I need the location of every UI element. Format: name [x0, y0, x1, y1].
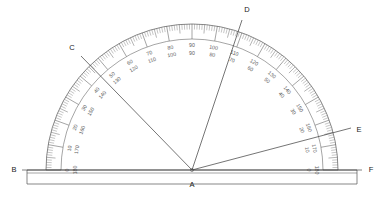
- tick-minor: [212, 25, 213, 30]
- tick-minor: [330, 142, 335, 143]
- tick-minor: [59, 111, 64, 113]
- tick-minor: [172, 25, 173, 30]
- point-label-D: D: [244, 5, 250, 14]
- point-label-A: A: [189, 180, 194, 189]
- tick-minor: [47, 150, 52, 151]
- tick-major: [142, 33, 147, 47]
- tick-medium: [271, 50, 276, 57]
- tick-minor: [64, 99, 69, 102]
- tick-major: [167, 26, 170, 41]
- tick-minor: [327, 130, 332, 132]
- tick-minor: [91, 65, 95, 69]
- tick-minor: [311, 93, 316, 96]
- tick-minor: [140, 34, 142, 39]
- tick-minor: [310, 90, 315, 93]
- tick-minor: [326, 125, 331, 127]
- scale-number-inner: 100: [167, 51, 177, 58]
- tick-minor: [219, 27, 220, 32]
- tick-minor: [331, 147, 336, 148]
- tick-minor: [92, 63, 96, 67]
- scale-number-inner: 90: [189, 50, 195, 56]
- tick-major: [305, 97, 318, 105]
- tick-medium: [179, 25, 180, 34]
- tick-minor: [61, 106, 66, 108]
- tick-minor: [84, 72, 88, 76]
- scale-number-outer: 80: [167, 44, 174, 51]
- tick-minor: [57, 115, 62, 117]
- point-label-C: C: [69, 43, 75, 52]
- tick-minor: [49, 142, 54, 143]
- tick-minor: [226, 28, 227, 33]
- tick-major: [55, 120, 69, 125]
- tick-minor: [329, 137, 334, 138]
- tick-minor: [247, 36, 249, 41]
- tick-medium: [204, 25, 205, 34]
- tick-minor: [323, 118, 328, 120]
- tick-minor: [68, 93, 73, 96]
- tick-minor: [320, 111, 325, 113]
- scale-number-outer: 70: [146, 49, 154, 57]
- tick-minor: [249, 37, 251, 42]
- scale-number-outer: 100: [209, 44, 219, 51]
- tick-minor: [279, 55, 282, 59]
- tick-major: [321, 145, 336, 148]
- tick-minor: [96, 60, 100, 64]
- tick-minor: [288, 63, 292, 67]
- tick-minor: [308, 88, 313, 91]
- point-label-E: E: [356, 125, 361, 134]
- tick-major: [315, 120, 329, 125]
- tick-minor: [169, 26, 170, 31]
- tick-medium: [289, 67, 295, 73]
- tick-minor: [290, 65, 294, 69]
- tick-medium: [328, 157, 337, 158]
- tick-minor: [214, 26, 215, 31]
- tick-minor: [70, 90, 75, 93]
- scale-number-inner: 170: [73, 145, 80, 155]
- tick-medium: [51, 132, 60, 134]
- tick-minor: [298, 74, 302, 78]
- scale-number-inner: 10: [304, 146, 311, 153]
- tick-minor: [207, 25, 208, 30]
- tick-minor: [74, 84, 78, 87]
- scale-number-outer: 10: [66, 145, 73, 152]
- tick-medium: [72, 86, 79, 91]
- tick-minor: [254, 39, 256, 44]
- tick-minor: [123, 41, 126, 46]
- tick-minor: [331, 152, 336, 153]
- tick-major: [215, 26, 218, 41]
- tick-minor: [112, 48, 115, 53]
- tick-minor: [329, 140, 334, 141]
- tick-major: [48, 145, 63, 148]
- scale-number-inner: 50: [263, 76, 271, 84]
- tick-minor: [77, 80, 81, 83]
- ray-AE: [192, 128, 351, 170]
- tick-minor: [318, 106, 323, 108]
- tick-minor: [75, 82, 79, 85]
- scale-number-inner: 110: [147, 56, 157, 65]
- tick-minor: [52, 127, 57, 129]
- tick-minor: [260, 42, 263, 47]
- scale-number-inner: 30: [289, 107, 297, 115]
- tick-minor: [293, 69, 297, 73]
- tick-minor: [157, 28, 158, 33]
- tick-minor: [104, 53, 107, 57]
- tick-minor: [54, 122, 59, 124]
- tick-minor: [56, 118, 61, 120]
- tick-minor: [58, 113, 63, 115]
- tick-medium: [304, 86, 311, 91]
- tick-minor: [137, 35, 139, 40]
- protractor-inner-arc: [61, 39, 323, 170]
- tick-minor: [52, 130, 57, 132]
- tick-minor: [277, 53, 280, 57]
- tick-minor: [269, 48, 272, 53]
- tick-minor: [256, 40, 258, 45]
- tick-minor: [162, 27, 163, 32]
- tick-minor: [126, 40, 128, 45]
- tick-minor: [174, 25, 175, 30]
- scale-number-inner: 160: [78, 125, 87, 135]
- tick-minor: [94, 62, 98, 66]
- tick-minor: [275, 52, 278, 56]
- tick-minor: [301, 78, 305, 81]
- tick-minor: [284, 60, 288, 64]
- tick-medium: [108, 50, 113, 57]
